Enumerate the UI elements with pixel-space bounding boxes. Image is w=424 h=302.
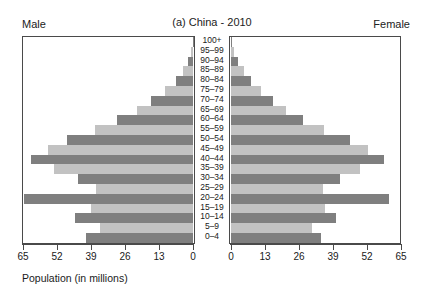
bar-row	[23, 174, 193, 184]
female-axis-tick	[367, 244, 368, 250]
bar-row	[23, 184, 193, 194]
bar-row	[231, 194, 400, 204]
female-axis-tick	[333, 244, 334, 250]
bar-row	[23, 66, 193, 76]
male-bar-5-9	[100, 223, 193, 233]
female-axis-tick	[231, 244, 232, 250]
bar-row	[231, 125, 400, 135]
age-group-axis: 100+95–9990–9485–8980–8475–7970–7465–696…	[194, 36, 230, 244]
bar-row	[231, 135, 400, 145]
bar-row	[23, 194, 193, 204]
female-axis-tick-label: 39	[327, 251, 338, 262]
male-bars-group	[23, 37, 193, 243]
bar-row	[231, 174, 400, 184]
female-x-axis	[230, 244, 401, 250]
bar-row	[23, 223, 193, 233]
bar-row	[23, 213, 193, 223]
bar-row	[231, 57, 400, 67]
male-bar-50-54	[67, 135, 193, 145]
bar-row	[23, 86, 193, 96]
female-bar-10-14	[231, 213, 336, 223]
bar-row	[231, 37, 400, 47]
bar-row	[23, 57, 193, 67]
male-x-axis	[22, 244, 194, 250]
female-bar-90-94	[231, 57, 238, 67]
male-axis-tick-label: 26	[119, 251, 130, 262]
female-bar-0-4	[231, 233, 321, 243]
bar-row	[231, 233, 400, 243]
male-bar-90-94	[188, 57, 193, 67]
female-bar-70-74	[231, 96, 273, 106]
bar-row	[23, 76, 193, 86]
age-group-label: 0–4	[194, 232, 230, 242]
bar-row	[231, 145, 400, 155]
female-bar-80-84	[231, 76, 251, 86]
female-bar-75-79	[231, 86, 261, 96]
male-bar-0-4	[86, 233, 193, 243]
male-axis-tick-label: 0	[190, 251, 196, 262]
female-bar-25-29	[231, 184, 323, 194]
female-bar-35-39	[231, 164, 360, 174]
population-pyramid-chart: Male (a) China - 2010 Female 100+95–9990…	[0, 0, 424, 302]
bar-row	[23, 233, 193, 243]
female-bar-5-9	[231, 223, 312, 233]
male-bar-65-69	[137, 106, 193, 116]
male-axis-line	[22, 244, 194, 245]
male-axis-tick	[91, 244, 92, 250]
bar-row	[23, 47, 193, 57]
bar-row	[23, 115, 193, 125]
female-axis-tick-label: 13	[259, 251, 270, 262]
bar-row	[231, 223, 400, 233]
male-bar-85-89	[183, 66, 193, 76]
male-bar-60-64	[117, 115, 193, 125]
female-bar-100+	[231, 37, 232, 47]
male-bar-55-59	[95, 125, 193, 135]
bar-row	[231, 164, 400, 174]
male-bar-80-84	[176, 76, 193, 86]
male-axis-tick	[159, 244, 160, 250]
male-bar-45-49	[48, 145, 193, 155]
bar-row	[231, 155, 400, 165]
bar-row	[231, 115, 400, 125]
bar-row	[23, 125, 193, 135]
bar-row	[231, 213, 400, 223]
bar-row	[23, 135, 193, 145]
female-bar-45-49	[231, 145, 368, 155]
bar-row	[23, 96, 193, 106]
male-bar-75-79	[165, 86, 193, 96]
male-axis-tick	[57, 244, 58, 250]
bar-row	[23, 204, 193, 214]
female-bar-15-19	[231, 204, 325, 214]
female-bar-30-34	[231, 174, 340, 184]
male-bar-95-99	[191, 47, 193, 57]
female-axis-line	[230, 244, 401, 245]
female-axis-tick-label: 26	[293, 251, 304, 262]
bar-row	[231, 76, 400, 86]
female-axis-tick	[265, 244, 266, 250]
female-axis-tick-label: 52	[361, 251, 372, 262]
male-bar-20-24	[24, 194, 193, 204]
bar-row	[231, 66, 400, 76]
bar-row	[23, 37, 193, 47]
chart-title: (a) China - 2010	[0, 16, 424, 28]
male-tick-labels: 65523926130	[22, 251, 194, 265]
male-bar-70-74	[151, 96, 193, 106]
male-bar-40-44	[31, 155, 193, 165]
bar-row	[231, 204, 400, 214]
male-bar-30-34	[78, 174, 193, 184]
x-axis-title: Population (in millions)	[22, 272, 128, 284]
bar-row	[231, 86, 400, 96]
female-bar-95-99	[231, 47, 234, 57]
male-bar-15-19	[91, 204, 193, 214]
bar-row	[23, 145, 193, 155]
male-bar-10-14	[75, 213, 193, 223]
bar-row	[23, 106, 193, 116]
female-axis-tick	[401, 244, 402, 250]
female-bar-55-59	[231, 125, 324, 135]
male-bar-35-39	[54, 164, 193, 174]
female-bar-40-44	[231, 155, 384, 165]
male-axis-tick	[23, 244, 24, 250]
female-bar-60-64	[231, 115, 303, 125]
bar-row	[231, 184, 400, 194]
bar-row	[23, 155, 193, 165]
